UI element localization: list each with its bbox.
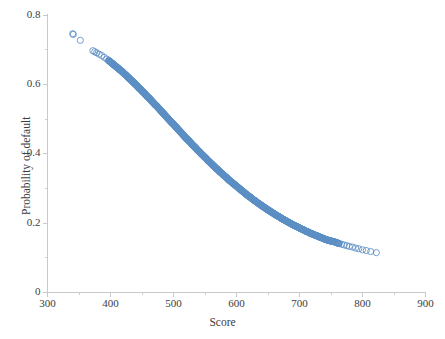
chart-figure: 00.20.40.60.8300400500600700800900 Score… — [0, 0, 445, 339]
data-point — [363, 247, 369, 253]
x-tick-label: 700 — [280, 297, 320, 309]
data-point — [77, 37, 83, 43]
y-tick-label: 0.6 — [27, 77, 41, 89]
y-tick-label: 0.2 — [27, 216, 41, 228]
x-axis-title: Score — [0, 316, 445, 328]
axis-lines — [48, 14, 426, 293]
data-point — [373, 250, 379, 256]
x-tick-label: 300 — [28, 297, 68, 309]
y-tick-label: 0.8 — [27, 8, 41, 20]
x-tick-label: 400 — [91, 297, 131, 309]
y-tick-label: 0 — [35, 285, 41, 297]
scatter-plot-canvas — [0, 0, 445, 339]
y-axis-title: Probability of default — [20, 117, 32, 215]
x-tick-label: 500 — [154, 297, 194, 309]
data-point — [368, 248, 374, 254]
x-tick-label: 800 — [343, 297, 383, 309]
x-tick-label: 600 — [217, 297, 257, 309]
x-tick-label: 900 — [406, 297, 445, 309]
data-point-group — [70, 31, 380, 256]
